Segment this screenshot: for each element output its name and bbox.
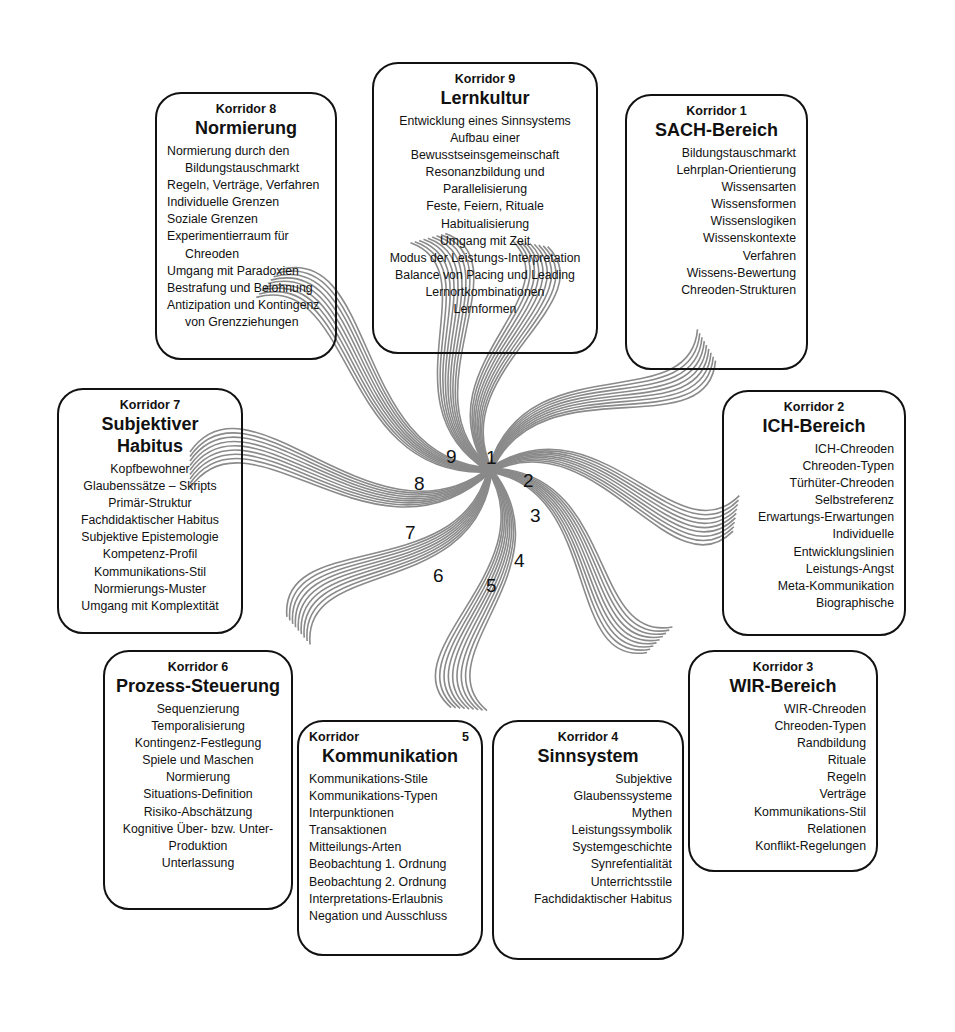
corridor-3-box: Korridor 3 WIR-Bereich WIR-ChreodenChreo… [688, 650, 878, 872]
corridor-item: Leistungs-Angst [734, 561, 894, 578]
corridor-items: SubjektiveGlaubenssystemeMythenLeistungs… [504, 771, 672, 908]
corridor-item: Regeln, Verträge, Verfahren [167, 177, 325, 194]
corridor-item: Glaubenssysteme [504, 788, 672, 805]
corridor-item: Chreoden [167, 246, 325, 263]
corridor-label: Korridor 4 [504, 730, 672, 745]
corridor-item: Chreoden-Typen [734, 458, 894, 475]
corridor-item: Primär-Struktur [69, 495, 231, 512]
corridor-title: Sinnsystem [504, 745, 672, 767]
corridor-item: Aufbau einer [384, 130, 586, 147]
corridor-item: Feste, Feiern, Rituale [384, 198, 586, 215]
corridor-item: Mitteilungs-Arten [309, 839, 471, 856]
corridor-item: Kognitive Über- bzw. Unter- [115, 821, 281, 838]
corridor-item: Wissenskontexte [637, 230, 796, 247]
corridor-item: Sequenzierung [115, 701, 281, 718]
spiral-number-5: 5 [486, 575, 497, 597]
corridor-item: Individuelle Grenzen [167, 194, 325, 211]
corridor-item: Normierung durch den [167, 143, 325, 160]
corridor-title: Lernkultur [384, 87, 586, 109]
corridor-item: Soziale Grenzen [167, 211, 325, 228]
spiral-number-1: 1 [486, 447, 497, 469]
corridor-item: Resonanzbildung und [384, 164, 586, 181]
corridor-item: Erwartungs-Erwartungen [734, 509, 894, 526]
corridor-item: Interpunktionen [309, 805, 471, 822]
corridor-item: Interpretations-Erlaubnis [309, 891, 471, 908]
corridor-item: Synrefentialität [504, 856, 672, 873]
corridor-item: Habitualisierung [384, 216, 586, 233]
corridor-4-box: Korridor 4 Sinnsystem SubjektiveGlaubens… [492, 720, 684, 960]
corridor-label-number: 5 [462, 730, 469, 745]
corridor-item: Umgang mit Komplextität [69, 598, 231, 615]
corridor-item: Kontingenz-Festlegung [115, 735, 281, 752]
corridor-item: Individuelle [734, 526, 894, 543]
corridor-item: Bewusstseinsgemeinschaft [384, 147, 586, 164]
corridor-item: Antizipation und Kontingenz [167, 297, 325, 314]
spiral-number-2: 2 [523, 470, 534, 492]
corridor-item: Verträge [700, 786, 866, 803]
corridor-item: Fachdidaktischer Habitus [504, 891, 672, 908]
corridor-item: Bestrafung und Belohnung [167, 280, 325, 297]
corridor-title: Normierung [167, 117, 325, 139]
corridor-items: Kommunikations-StileKommunikations-Typen… [309, 771, 471, 925]
corridor-title: Prozess-Steuerung [115, 675, 281, 697]
corridor-item: Chreoden-Strukturen [637, 282, 796, 299]
corridor-label: Korridor 2 [734, 400, 894, 415]
corridor-item: Spiele und Maschen [115, 752, 281, 769]
corridor-item: Verfahren [637, 248, 796, 265]
corridor-item: Situations-Definition [115, 786, 281, 803]
corridor-5-box: Korridor 5 Kommunikation Kommunikations-… [297, 720, 483, 956]
corridor-item: Normierungs-Muster [69, 581, 231, 598]
corridor-1-box: Korridor 1 SACH-Bereich Bildungstauschma… [625, 94, 808, 370]
corridor-item: Normierung [115, 769, 281, 786]
corridor-item: Systemgeschichte [504, 839, 672, 856]
corridor-label: Korridor 7 [69, 398, 231, 413]
corridor-item: Transaktionen [309, 822, 471, 839]
corridor-item: WIR-Chreoden [700, 701, 866, 718]
corridor-label: Korridor 6 [115, 660, 281, 675]
corridor-label: Korridor 5 [309, 730, 471, 745]
corridor-label: Korridor 8 [167, 102, 325, 117]
corridor-item: Wissenslogiken [637, 213, 796, 230]
spiral-number-4: 4 [514, 550, 525, 572]
corridor-item: Balance von Pacing und Leading [384, 267, 586, 284]
corridor-title: ICH-Bereich [734, 415, 894, 437]
corridor-item: Kommunikations-Stil [700, 804, 866, 821]
corridor-item: Unterlassung [115, 855, 281, 872]
corridor-item: ICH-Chreoden [734, 441, 894, 458]
corridor-item: Wissensformen [637, 196, 796, 213]
corridor-item: Risiko-Abschätzung [115, 804, 281, 821]
spiral-number-3: 3 [530, 505, 541, 527]
corridor-item: von Grenzziehungen [167, 314, 325, 331]
corridor-title: SACH-Bereich [637, 119, 796, 141]
corridor-label: Korridor 9 [384, 72, 586, 87]
corridor-items: Normierung durch denBildungstauschmarktR… [167, 143, 325, 331]
corridor-item: Regeln [700, 769, 866, 786]
corridor-item: Negation und Ausschluss [309, 908, 471, 925]
corridor-8-box: Korridor 8 Normierung Normierung durch d… [155, 92, 337, 360]
corridor-item: Selbstreferenz [734, 492, 894, 509]
corridor-item: Umgang mit Zeit [384, 233, 586, 250]
corridor-item: Fachdidaktischer Habitus [69, 512, 231, 529]
corridor-item: Biographische [734, 595, 894, 612]
corridor-items: ICH-ChreodenChreoden-TypenTürhüter-Chreo… [734, 441, 894, 612]
corridor-item: Kommunikations-Typen [309, 788, 471, 805]
corridor-item: Entwicklungslinien [734, 544, 894, 561]
corridor-item: Randbildung [700, 735, 866, 752]
corridor-item: Bildungstauschmarkt [167, 160, 325, 177]
spiral-number-7: 7 [405, 522, 416, 544]
corridor-item: Rituale [700, 752, 866, 769]
corridor-items: SequenzierungTemporalisierungKontingenz-… [115, 701, 281, 872]
corridor-items: Entwicklung eines SinnsystemsAufbau eine… [384, 113, 586, 318]
spiral-number-9: 9 [446, 446, 457, 468]
corridor-item: Mythen [504, 805, 672, 822]
corridor-items: BildungstauschmarktLehrplan-Orientierung… [637, 145, 796, 299]
corridor-item: Unterrichtsstile [504, 874, 672, 891]
corridor-item: Relationen [700, 821, 866, 838]
corridor-item: Umgang mit Paradoxien [167, 263, 325, 280]
corridor-label: Korridor 3 [700, 660, 866, 675]
corridor-9-box: Korridor 9 Lernkultur Entwicklung eines … [372, 62, 598, 354]
corridor-item: Beobachtung 2. Ordnung [309, 874, 471, 891]
corridor-items: WIR-ChreodenChreoden-TypenRandbildungRit… [700, 701, 866, 855]
corridor-label-text: Korridor [309, 730, 359, 744]
spiral-number-6: 6 [433, 565, 444, 587]
